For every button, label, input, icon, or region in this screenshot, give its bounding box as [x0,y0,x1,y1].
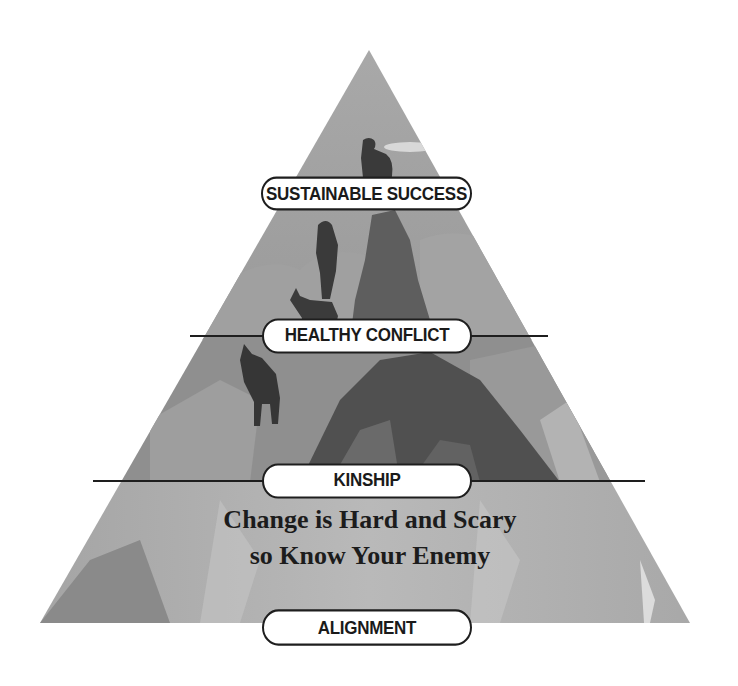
level-label-alignment: ALIGNMENT [262,609,472,645]
level-label-kinship: KINSHIP [262,463,472,498]
level-label-sustainable-success: SUSTAINABLE SUCCESS [261,176,472,210]
level-label-healthy-conflict: HEALTHY CONFLICT [262,318,472,353]
pyramid-diagram: SUSTAINABLE SUCCESS HEALTHY CONFLICT KIN… [0,0,738,686]
tagline-line-2: so Know Your Enemy [170,538,570,574]
tagline-line-1: Change is Hard and Scary [170,502,570,538]
